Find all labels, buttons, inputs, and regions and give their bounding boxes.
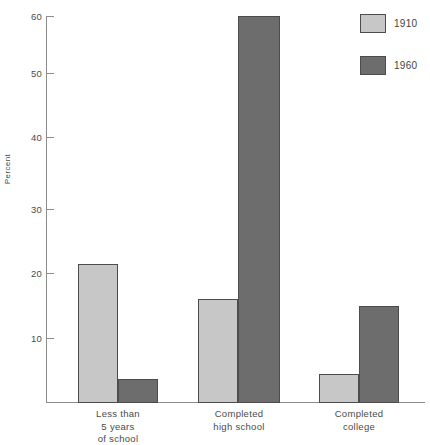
y-tick-label-10: 10	[12, 333, 42, 344]
x-group-label-completed-college: Completed college	[309, 408, 409, 433]
legend-label-1910: 1910	[394, 18, 417, 29]
y-tick-20	[46, 273, 54, 274]
y-axis-label: Percent	[3, 134, 12, 204]
y-tick-40	[46, 137, 54, 138]
bar-1910-completed-college	[319, 374, 359, 403]
bar-1960-completed-high-school	[238, 16, 280, 403]
legend-swatch-1910	[360, 14, 386, 33]
y-tick-label-60: 60	[12, 11, 42, 22]
y-tick-50	[46, 73, 54, 74]
legend-label-1960: 1960	[394, 60, 417, 71]
bar-1960-completed-college	[359, 306, 399, 403]
bar-1910-less-than-5-years	[78, 264, 118, 403]
x-group-label-less-than-5-years: Less than 5 years of school	[68, 408, 168, 445]
bar-chart: Percent 60 50 40 30 20 10 Less than 5 ye…	[0, 0, 430, 445]
y-tick-label-30: 30	[12, 204, 42, 215]
x-group-label-completed-high-school: Completed high school	[189, 408, 289, 433]
bar-1960-less-than-5-years	[118, 379, 158, 403]
y-tick-60	[46, 16, 54, 17]
y-tick-label-40: 40	[12, 132, 42, 143]
y-tick-30	[46, 209, 54, 210]
y-tick-label-50: 50	[12, 68, 42, 79]
y-tick-label-20: 20	[12, 268, 42, 279]
legend-swatch-1960	[360, 56, 386, 75]
bar-1910-completed-high-school	[198, 299, 238, 403]
y-tick-10	[46, 338, 54, 339]
